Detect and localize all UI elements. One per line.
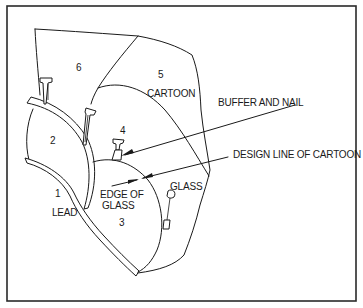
label-glass: GLASS [170,181,203,192]
callout-buffer-and-nail: BUFFER AND NAIL [218,97,304,108]
stained-glass-diagram: 6 5 4 2 1 3 CARTOON LEAD EDGE OF GLASS G… [0,0,363,308]
label-edge-of-glass-1: EDGE OF [100,189,144,200]
label-cartoon: CARTOON [147,88,195,99]
piece-number-6: 6 [76,62,82,73]
piece-number-5: 5 [158,69,164,80]
callout-design-line: DESIGN LINE OF CARTOON [233,149,361,160]
piece-number-3: 3 [119,217,125,228]
piece-number-1: 1 [55,188,61,199]
label-lead: LEAD [52,207,77,218]
piece-number-2: 2 [50,135,56,146]
label-edge-of-glass-2: GLASS [102,200,135,211]
piece-number-4: 4 [120,125,126,136]
